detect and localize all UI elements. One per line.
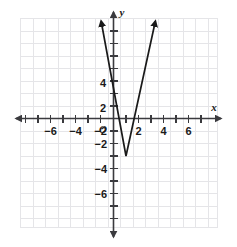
grid-vertical-lines (21, 18, 218, 228)
origin-label: O (99, 123, 107, 135)
graph-figure: −6 −4 −2 2 4 6 4 2 −2 −4 −6 O x y (0, 0, 237, 247)
y-tick-label-2: 2 (100, 102, 106, 114)
y-tick-label-4: 4 (100, 77, 107, 89)
x-tick-label-6: 6 (185, 125, 191, 137)
coordinate-plane: −6 −4 −2 2 4 6 4 2 −2 −4 −6 O x y (0, 0, 237, 247)
grid-horizontal-lines (20, 19, 218, 228)
x-axis-label: x (210, 101, 217, 113)
y-tick-label--2: −2 (94, 138, 107, 150)
x-tick-label--4: −4 (69, 125, 82, 137)
absolute-value-curve (101, 22, 155, 157)
x-tick-label-4: 4 (160, 125, 167, 137)
y-axis-label: y (118, 6, 125, 18)
y-tick-label--6: −6 (94, 188, 107, 200)
x-tick-label--6: −6 (44, 125, 57, 137)
x-tick-label-2: 2 (135, 125, 141, 137)
y-tick-label--4: −4 (94, 163, 107, 175)
